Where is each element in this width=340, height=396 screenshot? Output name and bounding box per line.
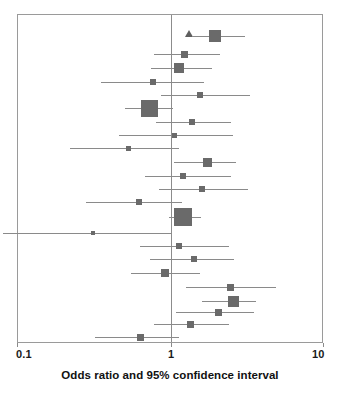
confidence-interval-line — [145, 176, 230, 177]
effect-estimate-marker — [181, 51, 188, 58]
effect-estimate-marker — [137, 334, 144, 341]
x-axis-tick-label: 1 — [168, 348, 174, 360]
confidence-interval-line — [70, 148, 178, 149]
effect-estimate-marker — [174, 63, 184, 73]
x-axis-tick — [17, 343, 18, 347]
effect-estimate-marker — [227, 284, 234, 291]
confidence-interval-line — [161, 95, 250, 96]
effect-estimate-marker — [126, 146, 131, 151]
x-axis-tick-label: 0.1 — [16, 348, 32, 360]
effect-estimate-marker — [187, 321, 194, 328]
effect-estimate-marker — [174, 208, 192, 226]
effect-estimate-marker — [172, 133, 177, 138]
effect-estimate-marker — [176, 243, 182, 249]
effect-estimate-marker — [228, 296, 239, 307]
confidence-interval-line — [140, 246, 229, 247]
confidence-interval-line — [3, 233, 171, 234]
effect-estimate-marker — [189, 119, 195, 125]
effect-estimate-marker — [161, 269, 169, 277]
effect-estimate-marker — [203, 158, 212, 167]
effect-estimate-marker — [209, 30, 221, 42]
x-axis-title: Odds ratio and 95% confidence interval — [0, 369, 340, 381]
null-effect-reference-line — [171, 15, 172, 342]
effect-estimate-marker — [197, 92, 203, 98]
effect-estimate-marker — [199, 186, 205, 192]
confidence-interval-line — [86, 202, 182, 203]
plot-area — [17, 14, 323, 343]
effect-estimate-marker — [215, 309, 222, 316]
x-axis-tick — [323, 343, 324, 347]
effect-estimate-marker — [91, 231, 95, 235]
forest-plot-figure: 0.1110 Odds ratio and 95% confidence int… — [0, 0, 340, 396]
effect-estimate-marker — [180, 173, 186, 179]
effect-estimate-marker — [191, 256, 197, 262]
x-axis-tick-label: 10 — [312, 348, 325, 360]
null-line-arrow-icon — [185, 30, 193, 37]
effect-estimate-marker — [141, 100, 158, 117]
x-axis-tick — [171, 343, 172, 347]
effect-estimate-marker — [136, 199, 142, 205]
effect-estimate-marker — [150, 79, 156, 85]
